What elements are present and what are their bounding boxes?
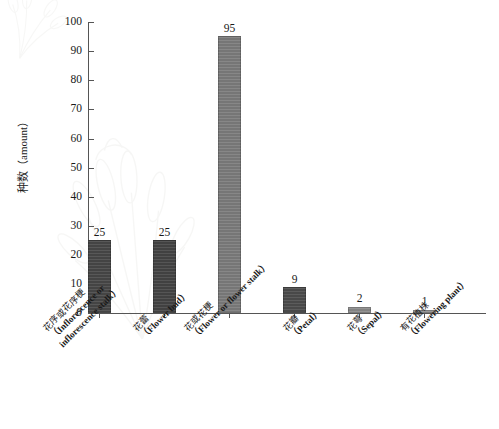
bar-value-flower-bud: 25 (147, 226, 182, 238)
x-tick-2 (229, 314, 230, 318)
bar-value-inflorescence: 25 (82, 226, 117, 238)
y-tick-label-80: 80 (50, 74, 82, 86)
bar-value-petal: 9 (277, 273, 312, 285)
y-tick-80 (89, 80, 94, 81)
y-tick-label-40: 40 (50, 191, 82, 203)
y-tick-label-20: 20 (50, 249, 82, 261)
bar-value-flower-or-stalk: 95 (212, 22, 247, 34)
y-tick-40 (89, 197, 94, 198)
y-tick-label-90: 90 (50, 45, 82, 57)
y-tick-label-30: 30 (50, 220, 82, 232)
y-tick-label-10: 10 (50, 278, 82, 290)
y-tick-90 (89, 51, 94, 52)
y-tick-label-60: 60 (50, 133, 82, 145)
y-tick-label-50: 50 (50, 162, 82, 174)
y-axis-title: 种数（amount） (17, 85, 30, 225)
y-tick-label-70: 70 (50, 103, 82, 115)
y-tick-50 (89, 168, 94, 169)
y-tick-100 (89, 22, 94, 23)
y-tick-70 (89, 109, 94, 110)
watermark-corner-icon (0, 0, 72, 72)
y-tick-60 (89, 139, 94, 140)
x-label-sepal: 花萼 （Sepal） (345, 298, 389, 342)
y-tick-label-100: 100 (50, 16, 82, 28)
bar-chart-figure: 100 90 80 70 60 50 40 30 20 10 0 种数（amou… (0, 0, 499, 429)
